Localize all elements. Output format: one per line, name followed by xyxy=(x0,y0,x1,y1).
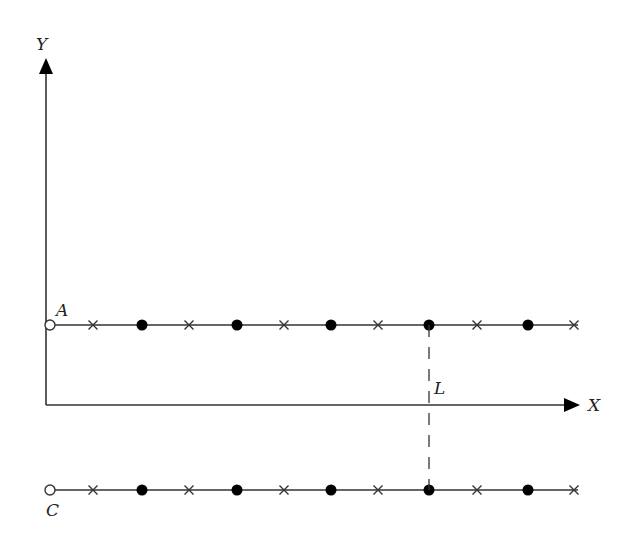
filled-dot-icon xyxy=(523,320,534,331)
dashed-line-label: L xyxy=(433,378,445,398)
filled-dot-icon xyxy=(137,320,148,331)
filled-dot-icon xyxy=(232,485,243,496)
filled-dot-icon xyxy=(232,320,243,331)
open-circle-icon xyxy=(45,485,55,495)
axes xyxy=(39,58,580,412)
row-a-label: A xyxy=(54,300,68,320)
x-axis-arrow-icon xyxy=(564,398,580,412)
filled-dot-icon xyxy=(326,320,337,331)
dashed-line-l: L xyxy=(429,325,445,490)
y-axis-arrow-icon xyxy=(39,58,53,74)
row-c: C xyxy=(45,485,579,521)
rows: AC xyxy=(45,300,579,520)
filled-dot-icon xyxy=(523,485,534,496)
diagram-canvas: AC L Y X xyxy=(0,0,636,553)
row-a: A xyxy=(45,300,579,331)
y-axis-label: Y xyxy=(36,34,49,54)
open-circle-icon xyxy=(45,320,55,330)
filled-dot-icon xyxy=(326,485,337,496)
row-c-label: C xyxy=(46,500,59,520)
filled-dot-icon xyxy=(137,485,148,496)
x-axis-label: X xyxy=(586,395,601,415)
